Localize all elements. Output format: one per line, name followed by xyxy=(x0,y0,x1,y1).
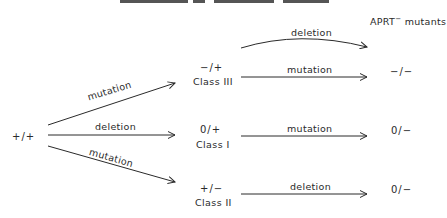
arrow-curved-deletion xyxy=(241,39,367,48)
header-title: APRT xyxy=(370,16,395,27)
result-genotype-2: 0/− xyxy=(391,125,412,136)
class-i-genotype: 0/+ xyxy=(200,124,221,135)
class-iii-label: Class III xyxy=(193,76,233,87)
label-deletion-middle: deletion xyxy=(95,121,136,132)
class-ii-label: Class II xyxy=(195,197,232,208)
header-suffix: mutants xyxy=(401,16,446,27)
result-genotype-3: 0/− xyxy=(391,184,412,195)
label-curved-deletion: deletion xyxy=(291,27,332,38)
class-ii-genotype: +/− xyxy=(200,183,223,194)
class-iii-genotype: −/+ xyxy=(200,62,223,73)
start-genotype: +/+ xyxy=(12,131,35,142)
label-class-i-mutation: mutation xyxy=(287,123,332,134)
label-class-iii-mutation: mutation xyxy=(287,64,332,75)
result-genotype-1: −/− xyxy=(390,66,413,77)
results-header: APRT− mutants xyxy=(370,15,446,27)
diagram-arrows xyxy=(0,0,447,218)
label-class-ii-deletion: deletion xyxy=(290,181,331,192)
class-i-label: Class I xyxy=(196,139,230,150)
